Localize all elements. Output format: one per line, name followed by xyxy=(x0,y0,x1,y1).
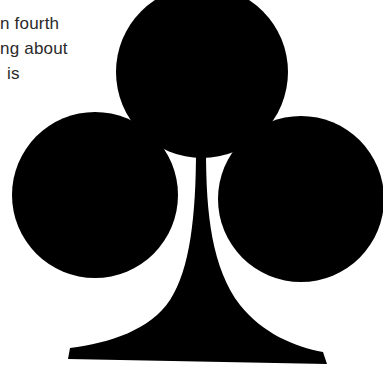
club-right-lobe xyxy=(218,116,383,282)
club-suit-icon xyxy=(0,0,383,370)
club-left-lobe xyxy=(12,112,178,278)
